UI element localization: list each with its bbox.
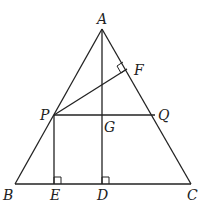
label-a: A — [95, 11, 107, 27]
label-p: P — [39, 107, 50, 123]
label-g: G — [104, 119, 115, 135]
label-e: E — [49, 187, 60, 203]
label-b: B — [2, 187, 13, 203]
segment-ac — [102, 29, 191, 184]
geometry-diagram: A B C D E F G P Q — [0, 0, 207, 213]
label-c: C — [187, 187, 198, 203]
label-d: D — [96, 187, 108, 203]
label-f: F — [133, 62, 145, 78]
right-angle-mark-e — [54, 177, 61, 184]
segment-pf — [54, 69, 127, 115]
right-angle-mark-d — [102, 177, 109, 184]
label-q: Q — [158, 107, 170, 123]
segment-ab — [15, 29, 102, 184]
